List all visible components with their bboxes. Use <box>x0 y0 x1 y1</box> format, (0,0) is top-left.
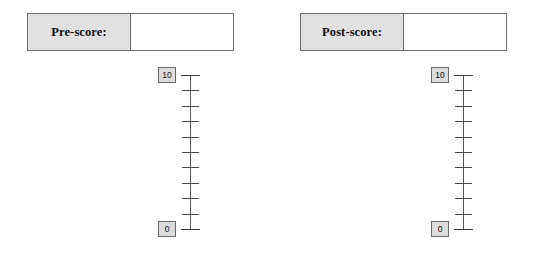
post-score-tick-3 <box>455 183 472 184</box>
post-score-scale-min-label: 0 <box>431 221 449 237</box>
pre-score-scale-max-label: 10 <box>158 67 176 83</box>
post-score-tick-4 <box>455 167 472 168</box>
post-score-input[interactable] <box>404 14 506 50</box>
post-score-tick-8 <box>455 106 472 107</box>
pre-score-tick-6 <box>182 137 199 138</box>
pre-score-tick-5 <box>182 152 199 153</box>
pre-score-tick-8 <box>182 106 199 107</box>
pre-score-input[interactable] <box>131 14 233 50</box>
post-score-scale-max-label: 10 <box>431 67 449 83</box>
pre-score-tick-1 <box>182 214 199 215</box>
post-score-ruler[interactable]: 10 0 <box>428 62 488 244</box>
post-score-tick-10 <box>454 75 473 76</box>
post-score-label-cell: Post-score: <box>301 14 404 50</box>
pre-score-label-cell: Pre-score: <box>28 14 131 50</box>
pre-score-tick-0 <box>181 229 200 230</box>
post-score-tick-6 <box>455 137 472 138</box>
post-score-label: Post-score: <box>322 25 382 40</box>
post-score-tick-5 <box>455 152 472 153</box>
pre-score-label: Pre-score: <box>51 25 106 40</box>
pre-score-tick-9 <box>182 90 199 91</box>
post-score-tick-9 <box>455 90 472 91</box>
pre-score-table: Pre-score: <box>27 13 234 51</box>
pre-score-tick-7 <box>182 121 199 122</box>
post-score-tick-1 <box>455 214 472 215</box>
post-score-tick-7 <box>455 121 472 122</box>
pre-score-tick-4 <box>182 167 199 168</box>
post-score-panel: Post-score: 10 0 <box>273 0 546 255</box>
pre-score-tick-10 <box>181 75 200 76</box>
pre-score-tick-3 <box>182 183 199 184</box>
post-score-tick-2 <box>455 198 472 199</box>
pre-score-panel: Pre-score: 10 0 <box>0 0 273 255</box>
pre-score-ruler[interactable]: 10 0 <box>155 62 215 244</box>
pre-score-scale-min-label: 0 <box>158 221 176 237</box>
post-score-table: Post-score: <box>300 13 507 51</box>
pre-score-tick-2 <box>182 198 199 199</box>
post-score-tick-0 <box>454 229 473 230</box>
